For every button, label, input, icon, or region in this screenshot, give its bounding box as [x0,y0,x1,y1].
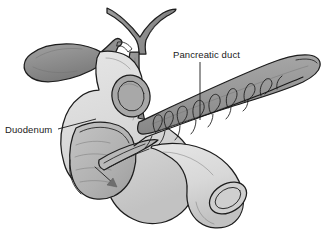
pancreatic-duct-label: Pancreatic duct [173,49,240,60]
anatomy-illustration: Pancreatic duct Duodenum [0,0,328,232]
anatomy-figure: Pancreatic duct Duodenum [0,0,328,232]
duodenum-label: Duodenum [5,124,52,135]
